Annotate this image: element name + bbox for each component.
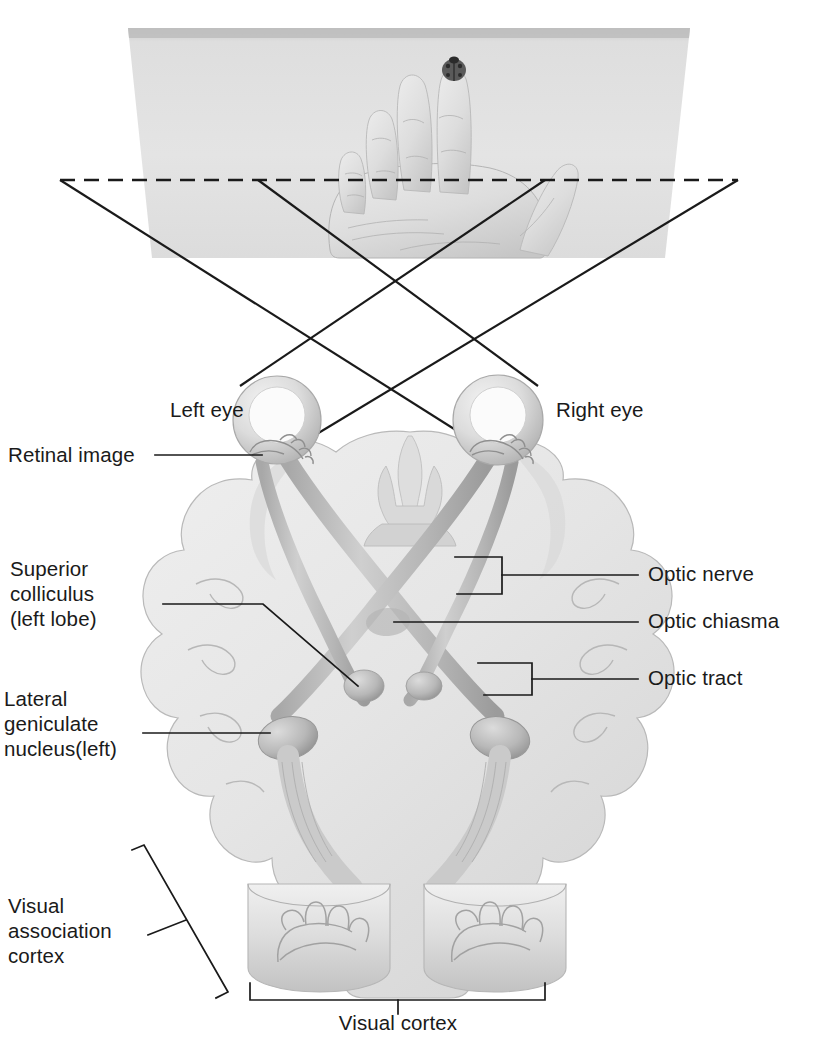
label-lateral-geniculate-nucleus: Lateral geniculate nucleus(left) bbox=[4, 686, 117, 761]
label-right-eye: Right eye bbox=[556, 397, 644, 422]
right-eye-globe bbox=[453, 375, 543, 465]
label-visual-association-cortex: Visual association cortex bbox=[8, 893, 112, 968]
label-lateral-geniculate-line-3: nucleus(left) bbox=[4, 736, 117, 761]
label-visual-association-line-1: Visual bbox=[8, 893, 112, 918]
label-left-eye: Left eye bbox=[170, 397, 244, 422]
label-retinal-image: Retinal image bbox=[8, 442, 135, 467]
left-eye-globe bbox=[233, 376, 321, 464]
label-visual-cortex: Visual cortex bbox=[298, 1010, 498, 1035]
label-lateral-geniculate-line-2: geniculate bbox=[4, 711, 117, 736]
label-visual-association-line-3: cortex bbox=[8, 943, 112, 968]
label-optic-chiasma: Optic chiasma bbox=[648, 608, 779, 633]
label-optic-nerve: Optic nerve bbox=[648, 561, 754, 586]
label-superior-colliculus: Superior colliculus (left lobe) bbox=[10, 556, 97, 631]
visual-pathway-illustration bbox=[0, 0, 815, 1040]
label-superior-colliculus-line-1: Superior bbox=[10, 556, 97, 581]
label-superior-colliculus-line-3: (left lobe) bbox=[10, 606, 97, 631]
superior-colliculus-right bbox=[406, 672, 442, 700]
diagram-canvas: Left eye Right eye Retinal image Superio… bbox=[0, 0, 815, 1040]
label-optic-tract: Optic tract bbox=[648, 665, 743, 690]
label-superior-colliculus-line-2: colliculus bbox=[10, 581, 97, 606]
superior-colliculus-left bbox=[344, 670, 384, 702]
brain-inferior-view bbox=[141, 431, 674, 998]
label-lateral-geniculate-line-1: Lateral bbox=[4, 686, 117, 711]
bracket-visual-association-cortex bbox=[132, 845, 228, 998]
label-visual-association-line-2: association bbox=[8, 918, 112, 943]
